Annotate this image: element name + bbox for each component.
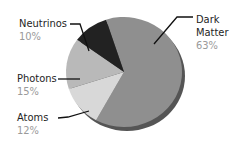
label-atoms: Atoms 12% — [17, 111, 48, 137]
label-neutrinos: Neutrinos 10% — [19, 17, 67, 43]
label-photons: Photons 15% — [17, 72, 57, 98]
leader-line-atoms — [58, 111, 89, 118]
label-neutrinos-pct: 10% — [19, 30, 67, 43]
label-photons-name: Photons — [17, 72, 57, 85]
label-atoms-name: Atoms — [17, 111, 48, 124]
label-dark-matter-name-2: Matter — [196, 26, 229, 39]
label-dark-matter-name-1: Dark — [196, 13, 229, 26]
label-atoms-pct: 12% — [17, 124, 48, 137]
label-dark-matter-pct: 63% — [196, 39, 229, 52]
label-photons-pct: 15% — [17, 85, 57, 98]
label-dark-matter: Dark Matter 63% — [196, 13, 229, 52]
label-neutrinos-name: Neutrinos — [19, 17, 67, 30]
